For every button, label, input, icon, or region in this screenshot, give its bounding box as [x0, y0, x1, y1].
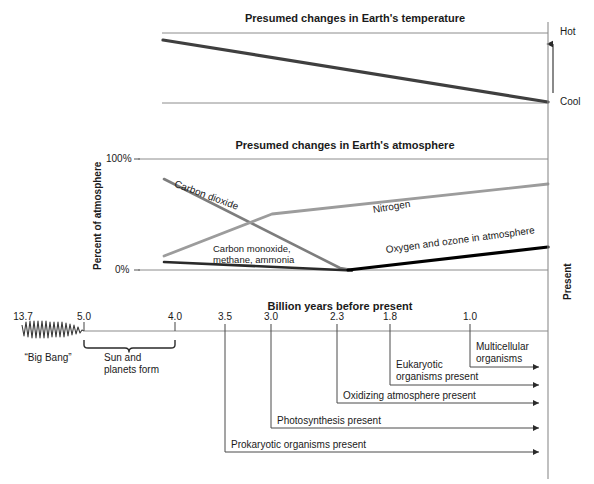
figure-canvas: Presumed changes in Earth's temperature …: [0, 0, 594, 484]
event-label-photosynthesis: Photosynthesis present: [277, 415, 381, 427]
atmosphere-ytick-100: 100%: [106, 153, 132, 165]
temperature-chart-title: Presumed changes in Earth's temperature: [245, 12, 465, 25]
timeline-tick-label-5_0: 5.0: [77, 311, 91, 323]
sun-planets-label-line2: planets form: [104, 364, 159, 376]
big-bang-squiggle: [22, 321, 84, 338]
temperature-cool-label: Cool: [560, 96, 581, 108]
event-label-eukaryotic-line2: organisms present: [396, 371, 478, 383]
figure-vector-layer: [0, 0, 594, 484]
event-label-multicellular-line2: organisms: [476, 353, 522, 365]
event-label-eukaryotic-line1: Eukaryotic: [396, 359, 443, 371]
event-label-multicellular-line1: Multicellular: [476, 341, 529, 353]
timeline-tick-label-4_0: 4.0: [168, 311, 182, 323]
timeline-axis: [22, 321, 548, 352]
temperature-curve: [163, 40, 548, 102]
big-bang-label: “Big Bang”: [24, 352, 71, 364]
present-label: Present: [562, 228, 574, 300]
oxygen-ozone-curve: [348, 247, 548, 270]
timeline-tick-label-1_8: 1.8: [383, 311, 397, 323]
sun-planets-label-line1: Sun and: [104, 352, 141, 364]
event-label-oxidizing: Oxidizing atmosphere present: [343, 390, 476, 402]
atmosphere-y-axis-label: Percent of atmosphere: [92, 160, 104, 270]
sun-planets-brace: [84, 340, 175, 352]
atmosphere-chart-title: Presumed changes in Earth's atmosphere: [235, 139, 454, 152]
reducing-gases-label-line2: methane, ammonia: [213, 254, 294, 265]
temperature-panel: [162, 33, 553, 103]
timeline-tick-label-13_7: 13.7: [13, 311, 32, 323]
reducing-gases-label-line1: Carbon monoxide,: [213, 243, 291, 254]
timeline-tick-label-1_0: 1.0: [463, 311, 477, 323]
timeline-tick-label-3_0: 3.0: [264, 311, 278, 323]
temperature-hot-label: Hot: [560, 26, 576, 38]
event-label-prokaryotic: Prokaryotic organisms present: [231, 439, 366, 451]
atmosphere-panel: [134, 159, 548, 271]
timeline-tick-label-2_3: 2.3: [330, 311, 344, 323]
atmosphere-ytick-0: 0%: [115, 264, 129, 276]
timeline-tick-label-3_5: 3.5: [218, 311, 232, 323]
